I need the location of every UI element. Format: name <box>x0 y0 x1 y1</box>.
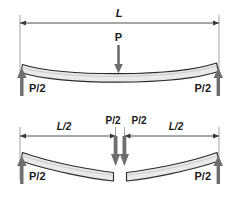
label-span-right: L/2 <box>169 121 184 132</box>
bending-test-figure: L P P/2 P/2 <box>0 0 238 205</box>
diagram-canvas: L P P/2 P/2 <box>0 0 238 205</box>
label-load-inner-left: P/2 <box>105 115 120 126</box>
load-arrow-inner-left <box>111 136 120 166</box>
load-arrow-P <box>114 45 123 74</box>
top-diagram-group: L P P/2 P/2 <box>17 7 223 96</box>
label-span-left: L/2 <box>57 121 72 132</box>
label-reaction-right-bottom: P/2 <box>194 170 211 182</box>
label-reaction-right-top: P/2 <box>194 82 211 94</box>
label-reaction-left-top: P/2 <box>29 82 46 94</box>
label-load-P: P <box>115 31 122 43</box>
label-load-inner-right: P/2 <box>131 115 146 126</box>
label-reaction-left-bottom: P/2 <box>29 170 46 182</box>
bottom-diagram-group: L/2 L/2 P/2 P/2 <box>17 115 223 184</box>
label-span-L: L <box>116 7 123 19</box>
load-arrow-inner-right <box>120 136 129 166</box>
